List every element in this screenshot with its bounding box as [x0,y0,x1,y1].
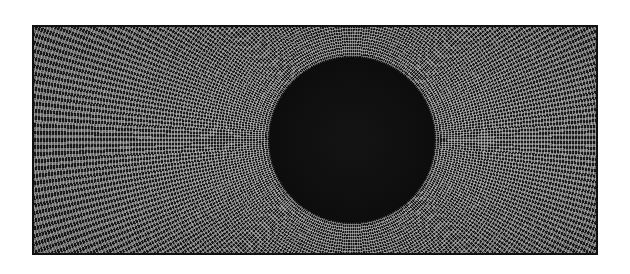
black-disc [269,57,435,223]
artwork-frame [32,25,598,255]
